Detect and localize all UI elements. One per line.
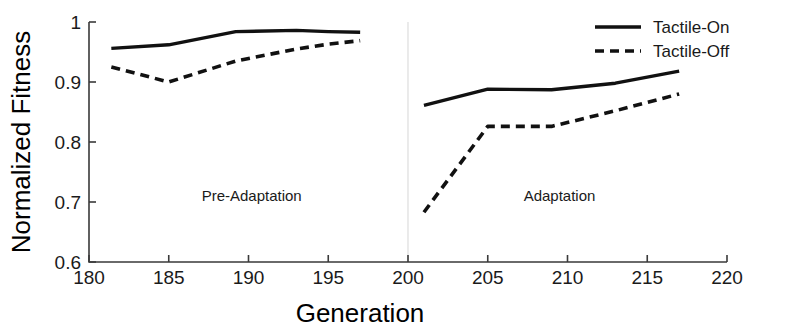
data-series-group bbox=[111, 30, 679, 212]
legend-label-tactile-on[interactable]: Tactile-On bbox=[653, 18, 730, 37]
x-tick-label: 185 bbox=[153, 267, 185, 288]
x-tick-label: 220 bbox=[711, 267, 743, 288]
y-axis-title: Normalized Fitness bbox=[6, 31, 36, 254]
x-tick-labels: 180185190195200205210215220 bbox=[73, 267, 743, 288]
x-tick-label: 205 bbox=[472, 267, 504, 288]
series-line-tactile-on bbox=[424, 71, 679, 105]
y-tick-label: 0.7 bbox=[55, 192, 81, 213]
y-tick-label: 0.9 bbox=[55, 72, 81, 93]
line-chart: 180185190195200205210215220 0.60.70.80.9… bbox=[0, 0, 800, 330]
x-tick-label: 210 bbox=[552, 267, 584, 288]
chart-legend[interactable]: Tactile-OnTactile-Off bbox=[595, 18, 730, 61]
y-tick-labels: 0.60.70.80.91 bbox=[55, 12, 81, 273]
x-axis-title: Generation bbox=[296, 298, 425, 328]
plot-annotation-adaptation: Adaptation bbox=[524, 187, 596, 204]
chart-figure: 180185190195200205210215220 0.60.70.80.9… bbox=[0, 0, 800, 330]
x-tick-label: 215 bbox=[631, 267, 663, 288]
plot-annotations: Pre-AdaptationAdaptation bbox=[202, 187, 596, 204]
y-tick-label: 0.6 bbox=[55, 252, 81, 273]
x-tick-label: 195 bbox=[312, 267, 344, 288]
y-tick-label: 1 bbox=[70, 12, 81, 33]
legend-label-tactile-off[interactable]: Tactile-Off bbox=[653, 42, 729, 61]
x-tick-label: 190 bbox=[233, 267, 265, 288]
plot-annotation-pre-adaptation: Pre-Adaptation bbox=[202, 187, 302, 204]
y-tick-label: 0.8 bbox=[55, 132, 81, 153]
x-tick-label: 200 bbox=[392, 267, 424, 288]
